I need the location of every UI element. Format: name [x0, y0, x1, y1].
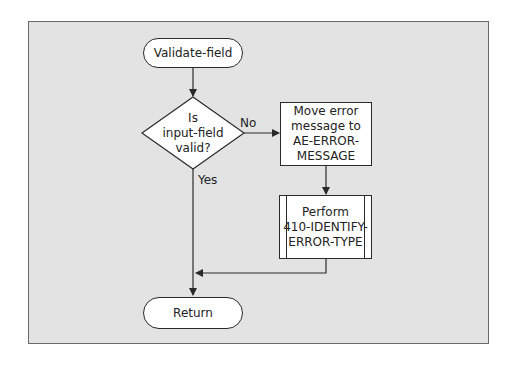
- perform-line-2: 410-IDENTIFY-: [283, 220, 368, 235]
- perform-line-1: Perform: [302, 205, 349, 220]
- move-error-process: Move error message to AE-ERROR- MESSAGE: [280, 102, 372, 166]
- decision-line-3: valid?: [148, 141, 238, 156]
- yes-edge-label: Yes: [198, 173, 217, 187]
- start-terminal: Validate-field: [143, 38, 243, 68]
- connector-lines: [0, 0, 511, 365]
- perform-line-3: ERROR-TYPE: [288, 235, 362, 250]
- decision-label: Is input-field valid?: [148, 111, 238, 156]
- move-line-4: MESSAGE: [297, 149, 355, 164]
- perform-predefined-process: Perform 410-IDENTIFY- ERROR-TYPE: [279, 195, 372, 259]
- return-label: Return: [173, 306, 213, 321]
- decision-line-1: Is: [148, 111, 238, 126]
- move-line-2: message to: [291, 119, 361, 134]
- decision-line-2: input-field: [148, 126, 238, 141]
- no-edge-label: No: [240, 116, 256, 130]
- start-label: Validate-field: [154, 46, 233, 61]
- move-line-1: Move error: [293, 104, 358, 119]
- return-terminal: Return: [143, 297, 243, 329]
- move-line-3: AE-ERROR-: [293, 134, 359, 149]
